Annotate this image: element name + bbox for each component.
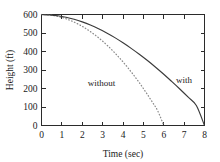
x-tick-label: 5 (141, 130, 146, 140)
height-vs-time-plot: 0100200300400500600 012345678 Height (ft… (0, 0, 220, 162)
x-tick-label: 8 (202, 130, 207, 140)
y-axis-title: Height (ft) (5, 50, 16, 90)
y-tick-label: 500 (23, 28, 38, 38)
y-tick-label: 100 (23, 102, 38, 112)
x-tick-label: 1 (60, 130, 65, 140)
x-tick-label: 0 (39, 130, 44, 140)
annotation-without: without (88, 78, 116, 88)
annotation-with: with (176, 75, 193, 85)
y-tick-label: 600 (23, 10, 38, 20)
x-tick-label: 6 (161, 130, 166, 140)
y-tick-label: 300 (23, 65, 38, 75)
x-axis-title: Time (sec) (103, 149, 144, 160)
x-tick-label: 3 (100, 130, 105, 140)
x-tick-label: 2 (80, 130, 85, 140)
x-tick-label: 4 (121, 130, 126, 140)
y-tick-label: 0 (33, 121, 38, 131)
x-tick-label: 7 (182, 130, 187, 140)
y-tick-label: 400 (23, 47, 38, 57)
y-tick-label: 200 (23, 84, 38, 94)
chart-figure: 0100200300400500600 012345678 Height (ft… (0, 0, 220, 162)
